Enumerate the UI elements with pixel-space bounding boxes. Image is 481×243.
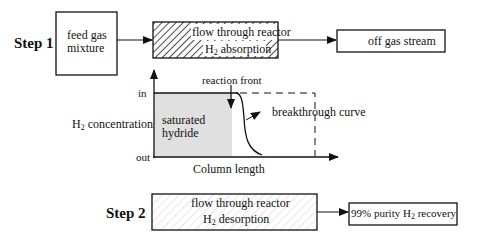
reaction-front-label: reaction front	[202, 75, 262, 86]
step-1-label: Step 1	[14, 36, 54, 51]
off-gas-label: off gas stream	[368, 35, 436, 47]
y-axis-label: H2 concentration	[72, 118, 153, 130]
desorption-line1: flow through reactor	[191, 197, 290, 209]
reactor-line1: flow through reactor	[192, 26, 291, 38]
step-2-label: Step 2	[106, 206, 146, 221]
saturated-label-line2: hydride	[162, 127, 199, 139]
breakthrough-pointer-arrow	[246, 112, 260, 120]
y-tick-out: out	[136, 152, 150, 163]
breakthrough-curve	[236, 93, 262, 155]
breakthrough-curve-label: breakthrough curve	[272, 106, 366, 118]
hydrogen-purification-diagram: Step 1 feed gas mixture flow through rea…	[0, 0, 481, 243]
recovery-label: 99% purity H2 recovery	[351, 208, 456, 219]
desorption-line2: H2 desorption	[203, 213, 269, 225]
feed-box-line2: mixture	[67, 42, 104, 54]
feed-box-line1: feed gas	[67, 29, 107, 41]
saturated-label-line1: saturated	[162, 114, 205, 126]
x-axis-label: Column length	[193, 163, 265, 175]
y-tick-in: in	[138, 88, 147, 99]
reactor-line2: H2 absorption	[205, 43, 271, 55]
